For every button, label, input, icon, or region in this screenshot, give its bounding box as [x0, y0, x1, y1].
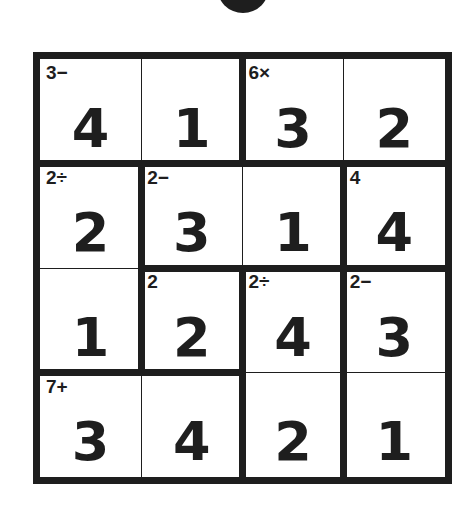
cell-value: 3 — [40, 415, 141, 469]
cell-value: 3 — [243, 102, 344, 156]
top-circle-decoration — [217, 0, 269, 13]
cage-clue: 7+ — [46, 377, 68, 396]
grid-cell-r2-c3[interactable]: 2−3 — [344, 268, 445, 373]
cage-border — [37, 369, 145, 376]
cage-clue: 4 — [350, 168, 361, 187]
cell-divider — [344, 372, 445, 373]
kenken-grid: 3−416×322÷22−31441222÷42−37+3421 — [33, 52, 452, 484]
cage-border — [138, 160, 246, 167]
cell-value: 4 — [40, 102, 141, 156]
grid-cell-r0-c0[interactable]: 3−4 — [40, 59, 141, 164]
cell-value: 3 — [344, 311, 445, 365]
grid-cell-r0-c2[interactable]: 6×3 — [243, 59, 344, 164]
cage-clue: 2 — [147, 272, 158, 291]
grid-cell-r1-c2[interactable]: 1 — [243, 164, 344, 269]
cell-value: 2 — [141, 311, 242, 365]
cage-border — [340, 160, 448, 167]
cell-divider — [141, 373, 142, 478]
cell-divider — [343, 59, 344, 164]
cage-border — [239, 265, 246, 377]
cell-value: 3 — [141, 206, 242, 260]
cell-value: 1 — [243, 206, 344, 260]
cage-border — [37, 160, 145, 167]
cage-border — [340, 369, 347, 481]
cell-value: 1 — [40, 311, 141, 365]
cage-clue: 2÷ — [249, 272, 270, 291]
grid-cell-r3-c0[interactable]: 7+3 — [40, 373, 141, 478]
cell-value: 4 — [344, 206, 445, 260]
grid-cell-r0-c3[interactable]: 2 — [344, 59, 445, 164]
grid-cell-r1-c3[interactable]: 44 — [344, 164, 445, 269]
grid-cell-r0-c1[interactable]: 1 — [141, 59, 242, 164]
grid-cell-r3-c2[interactable]: 2 — [243, 373, 344, 478]
grid-cell-r2-c1[interactable]: 22 — [141, 268, 242, 373]
grid-cell-r1-c0[interactable]: 2÷2 — [40, 164, 141, 269]
cell-divider — [141, 59, 142, 164]
cage-border — [239, 369, 246, 481]
cage-clue: 2− — [350, 272, 372, 291]
cage-border — [340, 265, 448, 272]
cell-value: 4 — [141, 415, 242, 469]
grid-cell-r3-c3[interactable]: 1 — [344, 373, 445, 478]
grid-cell-r2-c2[interactable]: 2÷4 — [243, 268, 344, 373]
cage-border — [138, 265, 246, 272]
cage-clue: 2÷ — [46, 168, 67, 187]
cage-border — [239, 160, 347, 167]
cell-divider — [243, 372, 344, 373]
cell-value: 2 — [344, 102, 445, 156]
cage-clue: 2− — [147, 168, 169, 187]
cell-value: 1 — [344, 415, 445, 469]
cage-clue: 6× — [249, 63, 271, 82]
cage-border — [239, 265, 347, 272]
cell-value: 1 — [141, 102, 242, 156]
cage-border — [138, 160, 145, 272]
cage-clue: 3− — [46, 63, 68, 82]
cage-border — [340, 265, 347, 377]
cell-value: 2 — [40, 206, 141, 260]
cage-border — [239, 56, 246, 168]
cage-border — [340, 160, 347, 272]
cage-border — [138, 369, 246, 376]
grid-cell-r2-c0[interactable]: 1 — [40, 268, 141, 373]
cell-divider — [40, 268, 141, 269]
cell-value: 4 — [243, 311, 344, 365]
cage-border — [138, 265, 145, 377]
cell-value: 2 — [243, 415, 344, 469]
cell-divider — [242, 164, 243, 269]
grid-cell-r3-c1[interactable]: 4 — [141, 373, 242, 478]
grid-cell-r1-c1[interactable]: 2−3 — [141, 164, 242, 269]
